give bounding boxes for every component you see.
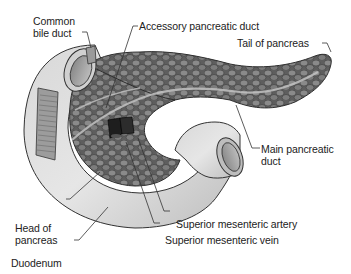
label-tail-of-pancreas: Tail of pancreas (237, 37, 309, 49)
label-common-bile-duct: Common bile duct (33, 15, 75, 39)
label-head-of-pancreas: Head of pancreas (15, 222, 57, 246)
label-line: Head of (15, 222, 57, 234)
common-bile-duct-shape (86, 46, 96, 64)
label-line: pancreas (15, 234, 57, 246)
pancreas-diagram: Common bile duct Accessory pancreatic du… (0, 0, 351, 274)
label-line: Superior mesenteric vein (165, 234, 279, 246)
label-line: Duodenum (11, 257, 62, 269)
label-line: Tail of pancreas (237, 37, 309, 49)
label-superior-mesenteric-vein: Superior mesenteric vein (165, 234, 279, 246)
label-accessory-pancreatic-duct: Accessory pancreatic duct (139, 20, 259, 32)
label-line: Accessory pancreatic duct (139, 20, 259, 32)
label-superior-mesenteric-artery: Superior mesenteric artery (176, 218, 297, 230)
label-main-pancreatic-duct: Main pancreatic duct (261, 143, 334, 167)
duodenum-distal-end (175, 122, 248, 180)
label-line: Main pancreatic (261, 143, 334, 155)
label-line: bile duct (33, 27, 75, 39)
label-line: Superior mesenteric artery (176, 218, 297, 230)
label-duodenum: Duodenum (11, 257, 62, 269)
label-line: Common (33, 15, 75, 27)
label-line: duct (261, 155, 334, 167)
